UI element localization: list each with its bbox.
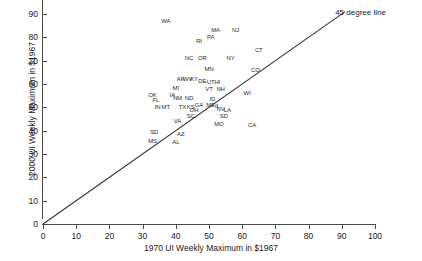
data-point-label: SD	[150, 129, 158, 135]
data-point-label: TX	[179, 104, 186, 110]
data-point-label: VT	[205, 86, 212, 92]
x-tick-label: 60	[230, 232, 254, 241]
x-tick-label: 10	[64, 232, 88, 241]
x-tick-label: 40	[164, 232, 188, 241]
x-tick-mark	[242, 224, 243, 229]
data-point-label: NC	[185, 55, 193, 61]
y-tick-label: 30	[14, 150, 38, 159]
x-tick-mark	[275, 224, 276, 229]
x-tick-label: 80	[297, 232, 321, 241]
x-tick-label: 100	[363, 232, 387, 241]
data-point-label: WA	[161, 18, 170, 24]
scatter-plot-figure: 2000 UI Weekly Maximum in $1967 1970 UI …	[0, 0, 422, 261]
y-tick-label: 50	[14, 103, 38, 112]
data-point-label: MN	[204, 66, 213, 72]
y-tick-mark	[43, 61, 47, 62]
data-point-label: SD	[220, 113, 228, 119]
x-tick-label: 90	[330, 232, 354, 241]
plot-area: 0102030405060708090010203040506070809010…	[0, 0, 422, 261]
data-point-label: NY	[227, 55, 235, 61]
x-tick-mark	[176, 224, 177, 229]
data-point-label: IN	[155, 104, 161, 110]
y-tick-mark	[43, 107, 47, 108]
x-tick-mark	[209, 224, 210, 229]
data-point-label: MA	[211, 27, 220, 33]
y-tick-mark	[43, 154, 47, 155]
data-point-label: AL	[172, 139, 179, 145]
y-tick-mark	[43, 177, 47, 178]
y-tick-mark	[43, 201, 47, 202]
x-tick-label: 20	[97, 232, 121, 241]
x-tick-label: 70	[263, 232, 287, 241]
y-tick-label: 20	[14, 173, 38, 182]
x-tick-mark	[309, 224, 310, 229]
y-tick-mark	[43, 84, 47, 85]
data-point-label: FL	[152, 97, 159, 103]
data-point-label: RI	[196, 38, 202, 44]
data-point-label: MO	[214, 121, 223, 127]
x-tick-mark	[109, 224, 110, 229]
data-point-label: CT	[255, 47, 263, 53]
data-point-label: MI	[173, 85, 179, 91]
data-point-label: MS	[148, 138, 157, 144]
y-tick-label: 90	[14, 10, 38, 19]
x-tick-label: 0	[31, 232, 55, 241]
data-point-label: AZ	[177, 131, 184, 137]
data-point-label: NH	[216, 86, 224, 92]
data-point-label: OR	[198, 55, 207, 61]
data-point-label: ND	[185, 95, 193, 101]
data-point-label: CA	[248, 122, 256, 128]
y-tick-label: 80	[14, 33, 38, 42]
data-point-label: UT	[207, 79, 215, 85]
data-point-label: DE	[198, 78, 206, 84]
x-tick-mark	[143, 224, 144, 229]
y-tick-label: 0	[14, 220, 38, 229]
x-tick-mark	[342, 224, 343, 229]
data-point-label: HI	[214, 79, 220, 85]
reference-line-annotation: 45 degree line	[335, 9, 386, 17]
x-tick-mark	[375, 224, 376, 229]
data-point-label: MT	[162, 104, 170, 110]
data-point-label: NJ	[232, 27, 239, 33]
data-point-label: ME	[206, 102, 215, 108]
data-point-label: WI	[244, 90, 251, 96]
data-point-label: CO	[251, 67, 260, 73]
y-tick-label: 10	[14, 197, 38, 206]
data-point-label: NM	[173, 95, 182, 101]
y-tick-mark	[43, 14, 47, 15]
y-tick-label: 40	[14, 127, 38, 136]
x-tick-mark	[43, 224, 44, 229]
data-point-label: VA	[174, 118, 181, 124]
data-point-label: PA	[207, 34, 214, 40]
data-point-label: SC	[187, 113, 195, 119]
y-tick-mark	[43, 37, 47, 38]
x-tick-label: 50	[197, 232, 221, 241]
y-tick-label: 70	[14, 57, 38, 66]
y-tick-label: 60	[14, 80, 38, 89]
x-tick-label: 30	[131, 232, 155, 241]
y-tick-mark	[43, 131, 47, 132]
x-tick-mark	[76, 224, 77, 229]
data-point-label: KY	[190, 76, 198, 82]
